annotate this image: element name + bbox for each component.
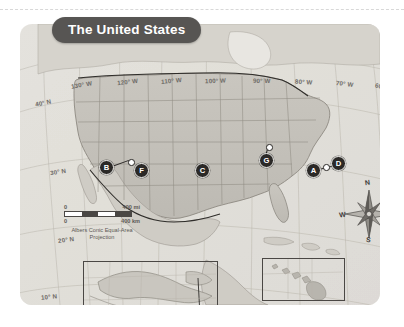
compass-rose: N E S W bbox=[338, 180, 380, 246]
top-divider-rule bbox=[0, 9, 404, 10]
scale-bar-graphic bbox=[64, 211, 132, 217]
map-marker-a[interactable]: A bbox=[306, 163, 321, 178]
alaska-inset-frame[interactable] bbox=[83, 261, 218, 305]
projection-note-line2: Projection bbox=[59, 234, 145, 241]
map-title-banner: The United States bbox=[52, 17, 201, 43]
hawaii-inset-frame[interactable] bbox=[262, 258, 345, 301]
map-marker-d[interactable]: D bbox=[331, 156, 346, 171]
map-plate[interactable]: 130° W 120° W 110° W 100° W 90° W 80° W … bbox=[20, 24, 380, 305]
scale-km-zero: 0 bbox=[64, 218, 67, 224]
map-marker-f[interactable]: F bbox=[134, 163, 149, 178]
compass-west-label: W bbox=[339, 211, 347, 219]
map-marker-c[interactable]: C bbox=[195, 163, 210, 178]
map-marker-g[interactable]: G bbox=[259, 153, 274, 168]
longitude-label-80w: 80° W bbox=[295, 77, 313, 85]
scale-miles-value: 400 mi bbox=[123, 204, 140, 210]
compass-south-label: S bbox=[366, 236, 372, 244]
projection-note: Albers Conic Equal-Area Projection bbox=[59, 227, 145, 241]
map-page: 130° W 120° W 110° W 100° W 90° W 80° W … bbox=[0, 0, 404, 327]
scale-bar: 0 400 mi 0 400 km Albers Conic Equal-Are… bbox=[64, 204, 140, 241]
scale-miles-zero: 0 bbox=[64, 204, 67, 210]
map-marker-b[interactable]: B bbox=[99, 160, 114, 175]
longitude-label-100w: 100° W bbox=[205, 77, 226, 85]
scale-km-value: 400 km bbox=[121, 218, 140, 224]
compass-north-label: N bbox=[365, 179, 371, 187]
projection-note-line1: Albers Conic Equal-Area bbox=[59, 227, 145, 234]
longitude-label-90w: 90° W bbox=[253, 77, 271, 84]
